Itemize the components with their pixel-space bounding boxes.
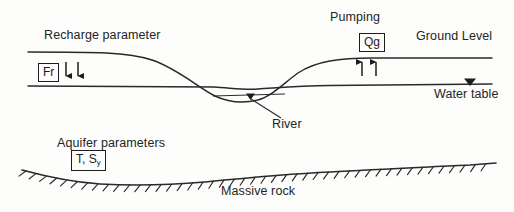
aquifer-properties-subscript: y bbox=[97, 158, 101, 167]
boxed-symbol-recharge-flux: Fr bbox=[38, 63, 59, 82]
river-level-triangle-icon bbox=[246, 94, 255, 101]
aquifer-properties-main: T, S bbox=[76, 152, 97, 166]
water-table-curve bbox=[28, 84, 492, 89]
river-leader-line bbox=[251, 99, 281, 118]
boxed-symbol-aquifer-properties: T, Sy bbox=[71, 150, 106, 171]
label-massive-rock: Massive rock bbox=[221, 185, 295, 198]
label-river: River bbox=[272, 118, 302, 131]
label-aquifer-parameters: Aquifer parameters bbox=[57, 137, 165, 150]
boxed-symbol-pumping-discharge: Qg bbox=[359, 33, 385, 52]
label-ground-level: Ground Level bbox=[416, 30, 492, 43]
label-recharge-parameter: Recharge parameter bbox=[44, 29, 160, 42]
aquifer-cross-section-diagram: Recharge parameter Pumping Ground Level … bbox=[0, 0, 514, 212]
label-water-table: Water table bbox=[434, 88, 499, 101]
label-pumping: Pumping bbox=[330, 11, 380, 24]
